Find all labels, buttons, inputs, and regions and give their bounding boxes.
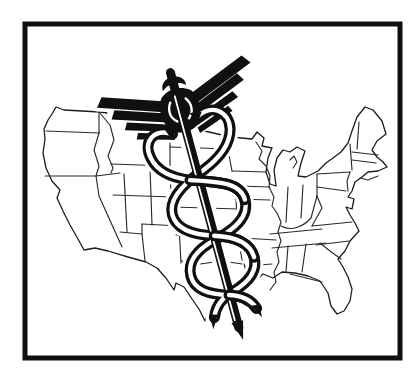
caduceus-us-map-illustration bbox=[0, 0, 419, 383]
illustration-page bbox=[0, 0, 419, 383]
